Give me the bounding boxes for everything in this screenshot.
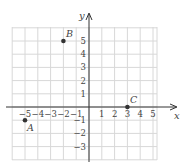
point-label-b: B (65, 28, 73, 39)
x-tick-label: 5 (150, 109, 155, 119)
x-axis-label: x (174, 110, 180, 121)
point-label-a: A (26, 122, 34, 133)
y-tick-label: −3 (73, 142, 86, 152)
x-tick-label: −4 (32, 109, 45, 119)
point-c (125, 105, 130, 110)
y-tick-label: −2 (73, 128, 86, 138)
x-tick-label: 4 (137, 109, 142, 119)
point-b (61, 39, 66, 44)
y-tick-label: 1 (81, 89, 86, 99)
y-axis-label: y (78, 10, 85, 21)
y-tick-label: 3 (81, 62, 86, 72)
y-tick-label: 4 (81, 49, 86, 59)
y-tick-label: 2 (81, 76, 86, 86)
coordinate-plane: x y −5−4−3−2−112345 −3−2−112345 A B C (0, 0, 186, 167)
x-tick-label: −3 (44, 109, 57, 119)
x-tick-label: 2 (112, 109, 117, 119)
x-tick-label: −5 (19, 109, 32, 119)
x-tick-label: 1 (99, 109, 104, 119)
x-tick-labels: −5−4−3−2−112345 (19, 109, 156, 119)
y-tick-label: 5 (81, 36, 86, 46)
x-tick-label: −2 (57, 109, 70, 119)
point-label-c: C (130, 94, 138, 105)
x-tick-label: 3 (125, 109, 130, 119)
y-tick-label: −1 (73, 115, 86, 125)
